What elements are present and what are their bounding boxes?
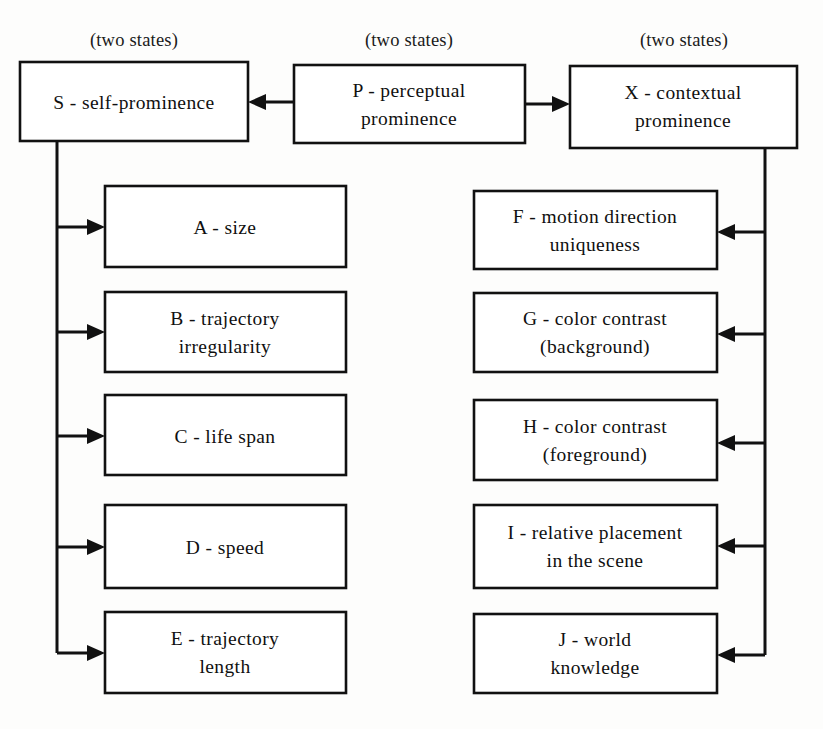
node-color-contrast-foreground-label-line2: (foreground) [543, 444, 647, 466]
node-size[interactable]: A - size [105, 186, 346, 267]
arrow-head-icon [87, 645, 105, 661]
arrow-head-icon [87, 324, 105, 340]
arrow-head-icon [87, 428, 105, 444]
edge-contextual-to-color-contrast-foreground [717, 435, 765, 451]
arrow-head-icon [87, 219, 105, 235]
node-motion-direction-uniqueness[interactable]: F - motion direction uniqueness [474, 191, 717, 269]
caption-two-states-self: (two states) [90, 30, 178, 51]
node-trajectory-length-label-line2: length [199, 656, 250, 677]
edge-self-to-life-span [57, 428, 105, 444]
node-trajectory-length[interactable]: E - trajectory length [105, 612, 346, 693]
state-captions-group: (two states) (two states) (two states) [90, 30, 728, 51]
node-trajectory-irregularity-label-line2: irregularity [179, 336, 272, 357]
node-speed[interactable]: D - speed [105, 505, 346, 588]
node-relative-placement-label-line2: in the scene [547, 550, 644, 571]
arrow-head-icon [717, 538, 735, 554]
node-world-knowledge-label-line1: J - world [559, 629, 632, 650]
edge-self-to-speed [57, 539, 105, 555]
node-life-span-label: C - life span [174, 426, 275, 447]
caption-two-states-perceptual: (two states) [365, 30, 453, 51]
node-relative-placement-label-line1: I - relative placement [508, 522, 683, 543]
arrow-head-icon [248, 94, 266, 110]
left-column-nodes: A - size B - trajectory irregularity C -… [105, 186, 346, 693]
node-motion-direction-uniqueness-label-line2: uniqueness [550, 234, 641, 255]
edge-contextual-to-world-knowledge [717, 647, 765, 663]
arrow-head-icon [87, 539, 105, 555]
node-color-contrast-foreground-label-line1: H - color contrast [523, 416, 667, 437]
node-perceptual-prominence[interactable]: P - perceptual prominence [294, 65, 525, 143]
node-color-contrast-background-label-line2: (background) [540, 336, 650, 358]
edge-self-to-trajectory-irregularity [57, 324, 105, 340]
edge-contextual-to-motion-direction [717, 224, 765, 240]
node-trajectory-irregularity-label-line1: B - trajectory [170, 308, 280, 329]
node-color-contrast-background[interactable]: G - color contrast (background) [474, 293, 717, 372]
node-size-label: A - size [194, 217, 257, 238]
edge-self-to-size [57, 219, 105, 235]
edge-contextual-to-relative-placement [717, 538, 765, 554]
edge-self-to-trajectory-length [57, 645, 105, 661]
arrow-head-icon [717, 326, 735, 342]
node-perceptual-prominence-label-line1: P - perceptual [352, 80, 465, 101]
caption-two-states-contextual: (two states) [640, 30, 728, 51]
node-contextual-prominence[interactable]: X - contextual prominence [570, 66, 797, 148]
node-trajectory-length-label-line1: E - trajectory [171, 628, 279, 649]
edge-perceptual-to-self [248, 94, 294, 110]
node-contextual-prominence-label-line1: X - contextual [624, 82, 741, 103]
node-trajectory-irregularity[interactable]: B - trajectory irregularity [105, 292, 346, 372]
node-world-knowledge[interactable]: J - world knowledge [474, 614, 717, 693]
diagram-canvas: (two states) (two states) (two states) [0, 0, 823, 729]
arrow-head-icon [717, 224, 735, 240]
node-color-contrast-background-label-line1: G - color contrast [523, 308, 667, 329]
node-life-span[interactable]: C - life span [105, 395, 346, 475]
node-world-knowledge-label-line2: knowledge [550, 657, 639, 678]
node-speed-label: D - speed [186, 537, 264, 558]
node-self-prominence[interactable]: S - self-prominence [20, 62, 248, 141]
right-column-nodes: F - motion direction uniqueness G - colo… [474, 191, 717, 693]
top-row-nodes: S - self-prominence P - perceptual promi… [20, 62, 797, 148]
edge-perceptual-to-contextual [525, 96, 570, 112]
node-contextual-prominence-label-line2: prominence [635, 110, 731, 131]
arrow-head-icon [717, 435, 735, 451]
node-relative-placement[interactable]: I - relative placement in the scene [474, 505, 717, 588]
arrow-head-icon [552, 96, 570, 112]
edge-contextual-to-color-contrast-background [717, 326, 765, 342]
arrow-head-icon [717, 647, 735, 663]
node-self-prominence-label: S - self-prominence [53, 92, 214, 113]
node-color-contrast-foreground[interactable]: H - color contrast (foreground) [474, 400, 717, 480]
node-perceptual-prominence-label-line2: prominence [361, 108, 457, 129]
node-motion-direction-uniqueness-label-line1: F - motion direction [513, 206, 678, 227]
prominence-hierarchy-diagram: (two states) (two states) (two states) [0, 0, 823, 729]
